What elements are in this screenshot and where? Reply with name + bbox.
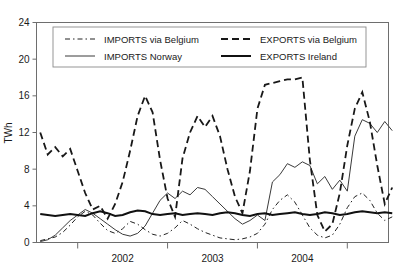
data-series <box>40 78 392 242</box>
series-line <box>40 120 392 242</box>
chart-figure: 04812162024 200220032004 TWh IMPORTS via… <box>0 0 402 277</box>
series-line <box>40 78 392 232</box>
y-tick-label: 4 <box>24 200 30 211</box>
legend-label: IMPORTS via Belgium <box>104 34 199 45</box>
x-axis-ticks: 200220032004 <box>78 243 348 264</box>
y-axis-ticks: 04812162024 <box>18 17 36 248</box>
y-tick-label: 16 <box>18 90 30 101</box>
legend-label: EXPORTS via Belgium <box>260 34 357 45</box>
x-tick-label: 2004 <box>291 253 314 264</box>
chart-legend: IMPORTS via BelgiumEXPORTS via BelgiumIM… <box>53 27 366 67</box>
line-chart: 04812162024 200220032004 TWh IMPORTS via… <box>0 0 402 277</box>
y-tick-label: 8 <box>24 164 30 175</box>
y-tick-label: 0 <box>24 237 30 248</box>
y-tick-label: 20 <box>18 54 30 65</box>
y-axis-title: TWh <box>3 122 14 143</box>
y-tick-label: 24 <box>18 17 30 28</box>
legend-label: IMPORTS Norway <box>104 51 182 62</box>
y-tick-label: 12 <box>18 127 30 138</box>
x-tick-label: 2003 <box>201 253 224 264</box>
legend-label: EXPORTS Ireland <box>260 51 337 62</box>
x-tick-label: 2002 <box>112 253 135 264</box>
